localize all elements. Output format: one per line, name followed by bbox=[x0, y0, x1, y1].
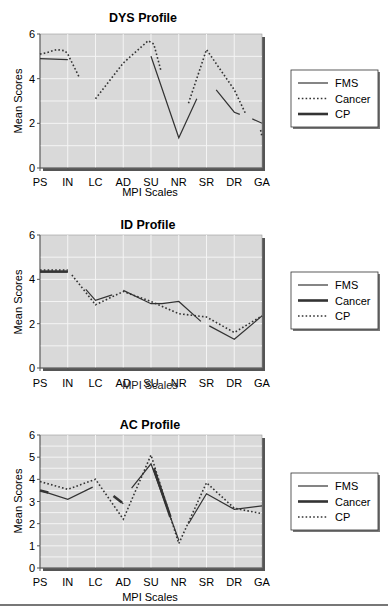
id-chart-svg: ID Profile Mean Scores 0246 PSINLCADSUNR… bbox=[0, 200, 388, 390]
plot-area bbox=[37, 435, 265, 571]
chart-title: ID Profile bbox=[121, 218, 176, 232]
y-axis-label: Mean Scores bbox=[12, 468, 24, 533]
legend-label: Cancer bbox=[335, 93, 371, 105]
legend: FMSCancerCP bbox=[291, 70, 380, 129]
x-tick-label: LC bbox=[88, 576, 102, 588]
bottom-divider bbox=[0, 604, 388, 606]
x-tick-labels: PSINLCADSUNRSRDRGA bbox=[33, 176, 271, 188]
y-tick-label: 6 bbox=[29, 429, 35, 441]
y-axis-label: Mean Scores bbox=[12, 68, 24, 133]
ac-profile-chart: AC Profile Mean Scores MPI Scales 012345… bbox=[0, 385, 388, 609]
x-tick-label: LC bbox=[88, 176, 102, 188]
legend-label: FMS bbox=[335, 480, 358, 492]
y-tick-label: 1 bbox=[29, 540, 35, 552]
y-tick-labels: 0246 bbox=[29, 28, 35, 174]
x-tick-label: DR bbox=[226, 176, 242, 188]
legend-label: FMS bbox=[335, 77, 358, 89]
id-x-axis-label: MPI Scales bbox=[0, 378, 300, 392]
x-tick-label: GA bbox=[254, 176, 271, 188]
x-tick-label: NR bbox=[171, 176, 187, 188]
y-tick-labels: 0246 bbox=[29, 229, 35, 374]
dys-profile-chart: DYS Profile Mean Scores MPI Scales 0246 … bbox=[0, 0, 388, 204]
y-tick-label: 2 bbox=[29, 518, 35, 530]
ac-chart-svg: AC Profile Mean Scores MPI Scales 012345… bbox=[0, 385, 388, 605]
x-tick-labels: PSINLCADSUNRSRDRGA bbox=[33, 576, 271, 588]
chart-title: AC Profile bbox=[120, 418, 180, 432]
x-tick-label: SU bbox=[143, 576, 158, 588]
plot-area bbox=[37, 34, 265, 171]
y-tick-labels: 0123456 bbox=[29, 429, 35, 574]
y-tick-label: 6 bbox=[29, 229, 35, 241]
y-tick-label: 0 bbox=[29, 162, 35, 174]
x-tick-label: IN bbox=[62, 576, 73, 588]
y-tick-label: 4 bbox=[29, 273, 35, 285]
y-tick-label: 0 bbox=[29, 362, 35, 374]
legend: FMSCancerCP bbox=[291, 473, 380, 532]
x-tick-label: SU bbox=[143, 176, 158, 188]
x-tick-label: SR bbox=[199, 176, 214, 188]
plot-area bbox=[37, 235, 265, 371]
legend-label: FMS bbox=[335, 279, 358, 291]
y-tick-label: 3 bbox=[29, 496, 35, 508]
y-tick-label: 4 bbox=[29, 73, 35, 85]
y-tick-label: 4 bbox=[29, 473, 35, 485]
chart-title: DYS Profile bbox=[109, 11, 177, 25]
y-tick-label: 5 bbox=[29, 451, 35, 463]
x-tick-label: AD bbox=[116, 176, 131, 188]
x-tick-label: PS bbox=[33, 576, 48, 588]
x-tick-label: NR bbox=[171, 576, 187, 588]
y-tick-label: 0 bbox=[29, 562, 35, 574]
legend-label: CP bbox=[335, 108, 350, 120]
x-tick-label: PS bbox=[33, 176, 48, 188]
dys-chart-svg: DYS Profile Mean Scores MPI Scales 0246 … bbox=[0, 0, 388, 200]
legend-label: CP bbox=[335, 511, 350, 523]
x-tick-label: DR bbox=[226, 576, 242, 588]
y-axis-label: Mean Scores bbox=[12, 269, 24, 334]
legend: FMSCancerCP bbox=[291, 272, 380, 331]
y-tick-label: 2 bbox=[29, 117, 35, 129]
legend-label: Cancer bbox=[335, 496, 371, 508]
x-tick-label: AD bbox=[116, 576, 131, 588]
y-tick-label: 6 bbox=[29, 28, 35, 40]
x-axis-label: MPI Scales bbox=[122, 591, 178, 603]
y-tick-label: 2 bbox=[29, 318, 35, 330]
id-profile-chart: ID Profile Mean Scores 0246 PSINLCADSUNR… bbox=[0, 200, 388, 394]
x-tick-label: GA bbox=[254, 576, 271, 588]
x-tick-label: SR bbox=[199, 576, 214, 588]
legend-label: Cancer bbox=[335, 295, 371, 307]
x-tick-label: IN bbox=[62, 176, 73, 188]
legend-label: CP bbox=[335, 310, 350, 322]
